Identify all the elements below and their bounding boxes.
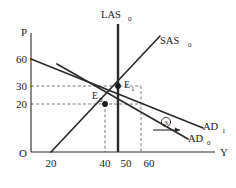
x-tick-label-20: 20 bbox=[46, 157, 58, 169]
shift-arrow-head bbox=[175, 128, 180, 133]
curve-label-ad0-base: AD bbox=[188, 133, 204, 144]
point-e1 bbox=[115, 83, 121, 89]
curve-label-las0-sub: 0 bbox=[128, 15, 132, 23]
curve-label-las0-base: LAS bbox=[101, 9, 121, 20]
y-tick-label-20: 20 bbox=[16, 98, 28, 110]
shift-marker-label: 3 bbox=[164, 119, 168, 127]
y-tick-label-30: 30 bbox=[16, 80, 28, 92]
eq-label-e1: E 1 bbox=[124, 80, 135, 93]
x-tick-label-60: 60 bbox=[144, 157, 156, 169]
origin-label: O bbox=[19, 147, 27, 159]
curve-label-ad1: AD 1 bbox=[203, 121, 226, 135]
y-axis-label: P bbox=[21, 26, 27, 38]
eq-label-e1-sub: 1 bbox=[131, 85, 135, 93]
shift-annotation: 3 bbox=[153, 117, 180, 132]
eq-label-e0-sub: 0 bbox=[99, 96, 103, 104]
x-axis-label: Y bbox=[220, 146, 228, 158]
eq-label-e1-base: E bbox=[124, 80, 130, 90]
curve-label-las0: LAS 0 bbox=[101, 9, 132, 23]
curve-label-sas0-base: SAS bbox=[160, 35, 179, 46]
x-tick-label-40: 40 bbox=[100, 157, 112, 169]
economics-diagram: 3 60 30 20 20 40 50 60 P Y O LAS 0 SAS 0… bbox=[0, 0, 236, 188]
curve-label-ad0: AD 0 bbox=[188, 133, 211, 147]
curve-label-ad1-base: AD bbox=[203, 121, 219, 132]
eq-label-e0-base: E bbox=[92, 91, 98, 101]
curve-label-ad1-sub: 1 bbox=[222, 127, 226, 135]
y-tick-label-60: 60 bbox=[16, 53, 28, 65]
curve-sas0 bbox=[51, 36, 160, 152]
curve-label-sas0-sub: 0 bbox=[188, 41, 192, 49]
x-tick-label-50: 50 bbox=[121, 157, 133, 169]
curve-label-ad0-sub: 0 bbox=[207, 139, 211, 147]
curve-label-sas0: SAS 0 bbox=[160, 35, 192, 49]
point-e0 bbox=[102, 101, 108, 107]
